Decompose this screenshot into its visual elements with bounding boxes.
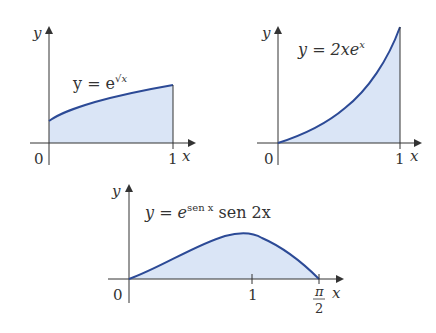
x-axis-label: x (332, 284, 341, 302)
y-axis-label: y (111, 182, 121, 200)
shaded-region (49, 85, 173, 143)
equation-label: y = 2xex (297, 39, 365, 59)
svg-text:π: π (314, 284, 324, 299)
tick-label-1: 1 (395, 150, 405, 168)
tick-label-pi-over-2: π 2 (313, 284, 325, 316)
shaded-region (129, 233, 319, 279)
origin-label: 0 (264, 150, 274, 168)
equation-label: y = e√x (72, 73, 127, 93)
graph-1: y 0 1 x y = e√x (30, 24, 194, 168)
equation-label: y = esen x sen 2x (144, 202, 271, 222)
origin-label: 0 (113, 286, 123, 304)
svg-text:2: 2 (315, 301, 323, 316)
figure: y 0 1 x y = e√x y 0 1 x y = 2xex y 0 1 π… (0, 0, 436, 333)
x-axis-label: x (410, 147, 419, 165)
graph-3: y 0 1 π 2 x y = esen x sen 2x (108, 182, 342, 316)
tick-label-1: 1 (168, 150, 178, 168)
graph-2: y 0 1 x y = 2xex (257, 24, 420, 168)
x-axis-label: x (182, 147, 191, 165)
tick-label-1: 1 (248, 286, 258, 304)
origin-label: 0 (34, 150, 44, 168)
y-axis-label: y (261, 24, 271, 42)
y-axis-label: y (32, 24, 42, 42)
